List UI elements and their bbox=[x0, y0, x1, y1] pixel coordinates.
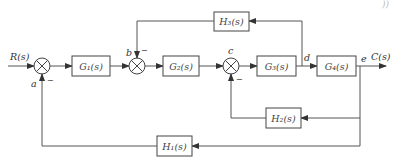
corner-text: )) bbox=[381, 0, 390, 9]
sign-c: − bbox=[236, 75, 243, 84]
output-label: C(s) bbox=[371, 51, 391, 62]
point-label-b: b bbox=[126, 47, 132, 58]
block-h1-label: H₁(s) bbox=[161, 141, 187, 152]
line-h3-b bbox=[137, 21, 214, 58]
block-g2-label: G₂(s) bbox=[169, 61, 193, 72]
block-h1: H₁(s) bbox=[157, 136, 192, 156]
block-h2-label: H₂(s) bbox=[270, 113, 296, 124]
point-label-c: c bbox=[228, 45, 234, 56]
input-label: R(s) bbox=[9, 51, 30, 62]
block-diagram: )) R(s) a − G₁(s) b − G₂(s) c − bbox=[0, 0, 395, 164]
line-h1-a bbox=[42, 74, 157, 146]
block-g3-label: G₃(s) bbox=[265, 61, 289, 72]
summing-junction-b bbox=[129, 58, 145, 74]
point-label-a: a bbox=[31, 78, 37, 89]
summing-junction-a bbox=[34, 58, 50, 74]
block-g1: G₁(s) bbox=[72, 56, 110, 76]
block-g1-label: G₁(s) bbox=[79, 61, 103, 72]
block-h3: H₃(s) bbox=[214, 12, 249, 31]
block-g3: G₃(s) bbox=[257, 56, 296, 76]
point-label-d: d bbox=[304, 52, 310, 63]
block-h3-label: H₃(s) bbox=[218, 16, 244, 27]
block-g2: G₂(s) bbox=[163, 56, 199, 76]
block-g4-label: G₄(s) bbox=[325, 61, 349, 72]
point-label-e: e bbox=[361, 53, 367, 64]
block-g4: G₄(s) bbox=[317, 56, 356, 76]
sign-a: − bbox=[47, 76, 54, 85]
block-h2: H₂(s) bbox=[266, 108, 301, 128]
sign-b: − bbox=[141, 46, 148, 55]
summing-junction-c bbox=[223, 58, 239, 74]
